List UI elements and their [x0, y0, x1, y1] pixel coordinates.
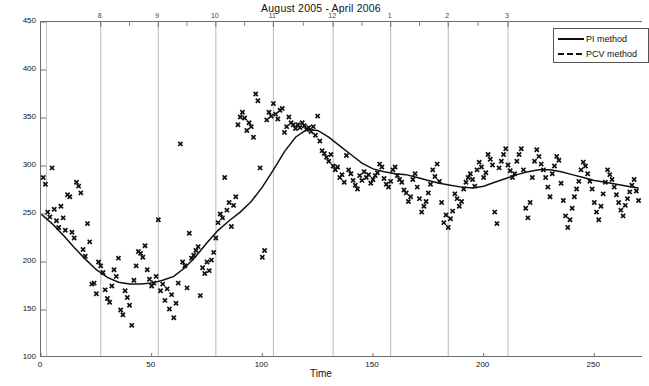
y-tick-label: 350 [8, 112, 36, 121]
top-month-label: 10 [205, 12, 225, 19]
y-tick-label: 450 [8, 16, 36, 25]
y-tick-label: 200 [8, 256, 36, 265]
dashed-line-icon [558, 49, 584, 59]
y-tick-label: 150 [8, 304, 36, 313]
top-month-label: 1 [380, 12, 400, 19]
legend-label-pi: PI method [584, 34, 627, 44]
legend: PI method PCV method [553, 28, 649, 63]
legend-item-pi: PI method [558, 31, 648, 46]
top-month-label: 9 [147, 12, 167, 19]
legend-item-pcv: PCV method [558, 46, 648, 61]
y-tick-label: 250 [8, 208, 36, 217]
top-month-label: 8 [90, 12, 110, 19]
top-month-label: 2 [437, 12, 457, 19]
solid-line-icon [558, 34, 584, 44]
top-month-label: 3 [497, 12, 517, 19]
top-month-label: 11 [262, 12, 282, 19]
y-tick-label: 300 [8, 160, 36, 169]
legend-label-pcv: PCV method [584, 49, 637, 59]
top-month-label: 12 [322, 12, 342, 19]
y-tick-label: 400 [8, 64, 36, 73]
x-axis-label: Time [0, 368, 642, 379]
